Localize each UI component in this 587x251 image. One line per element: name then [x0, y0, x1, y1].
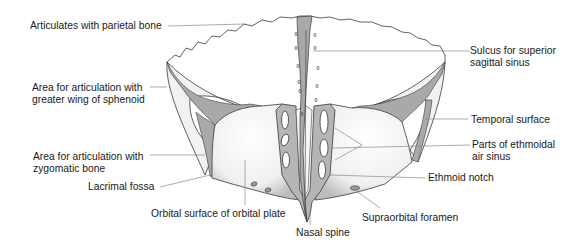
label-orbital-surface: Orbital surface of orbital plate	[151, 208, 286, 220]
label-text: Parts of ethmoidal	[472, 139, 555, 151]
label-text: Ethmoid notch	[428, 172, 494, 184]
label-temporal-surface: Temporal surface	[471, 114, 550, 126]
supraorbital-foramen	[351, 186, 360, 190]
label-text: greater wing of sphenoid	[32, 94, 145, 106]
label-text: Temporal surface	[471, 114, 550, 126]
label-text: Sulcus for superior	[470, 45, 556, 57]
label-ethmoid-notch: Ethmoid notch	[428, 172, 494, 184]
label-text: sagittal sinus	[470, 57, 556, 69]
label-text: Lacrimal fossa	[88, 181, 154, 193]
label-text: air sinus	[472, 151, 555, 163]
label-text: Area for articulation with	[33, 151, 143, 163]
label-sagittal-sulcus: Sulcus for superior sagittal sinus	[470, 45, 556, 69]
label-nasal-spine: Nasal spine	[296, 227, 350, 239]
label-ethmoidal-air-sinus: Parts of ethmoidal air sinus	[472, 139, 555, 163]
label-supraorbital-foramen: Supraorbital foramen	[362, 212, 458, 224]
label-text: Area for articulation with	[32, 82, 145, 94]
label-lacrimal-fossa: Lacrimal fossa	[88, 181, 154, 193]
label-zygomatic-articulation: Area for articulation with zygomatic bon…	[33, 151, 143, 175]
label-parietal-articulation: Articulates with parietal bone	[30, 20, 162, 32]
label-text: Nasal spine	[296, 227, 350, 239]
label-text: zygomatic bone	[33, 163, 143, 175]
label-text: Articulates with parietal bone	[30, 20, 162, 32]
frontal-bone-diagram: Articulates with parietal bone Area for …	[0, 0, 587, 251]
label-text: Supraorbital foramen	[362, 212, 458, 224]
label-sphenoid-articulation: Area for articulation with greater wing …	[32, 82, 145, 106]
label-text: Orbital surface of orbital plate	[151, 208, 286, 220]
